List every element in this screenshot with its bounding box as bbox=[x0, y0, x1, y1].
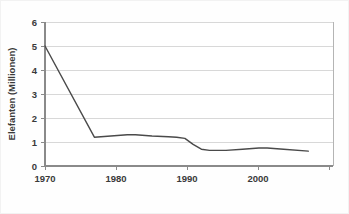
y-tick-label: 4 bbox=[32, 65, 38, 76]
y-tick-label: 6 bbox=[32, 17, 37, 28]
x-axis-tick-labels: 1970 1980 1990 2000 bbox=[34, 173, 268, 184]
y-tick-label: 2 bbox=[32, 113, 37, 124]
x-tick-label: 1990 bbox=[176, 173, 197, 184]
y-tick-label: 1 bbox=[32, 137, 38, 148]
x-tick-label: 2000 bbox=[247, 173, 268, 184]
chart-figure: 6 5 4 3 2 1 0 1970 1980 1990 2000 Elefan… bbox=[0, 0, 349, 214]
y-axis-title: Elefanten (Millionen) bbox=[6, 48, 17, 141]
line-chart: 6 5 4 3 2 1 0 1970 1980 1990 2000 Elefan… bbox=[1, 1, 349, 214]
y-axis-ticks bbox=[41, 22, 45, 166]
y-tick-label: 5 bbox=[32, 41, 38, 52]
x-tick-label: 1980 bbox=[105, 173, 126, 184]
y-axis-tick-labels: 6 5 4 3 2 1 0 bbox=[32, 17, 38, 172]
y-tick-label: 0 bbox=[32, 161, 37, 172]
x-tick-label: 1970 bbox=[34, 173, 55, 184]
y-tick-label: 3 bbox=[32, 89, 37, 100]
x-axis-ticks bbox=[45, 166, 329, 170]
